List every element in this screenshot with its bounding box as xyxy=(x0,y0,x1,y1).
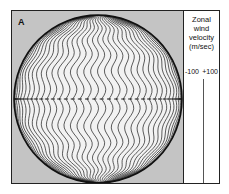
legend-title: Zonal wind velocity (m/sec) xyxy=(184,15,219,51)
legend-panel: Zonal wind velocity (m/sec) -100 +100 xyxy=(184,11,219,183)
legend-title-line: velocity xyxy=(184,33,219,42)
tick-min-label: -100 xyxy=(185,68,199,75)
globe-wind-diagram xyxy=(12,11,183,183)
velocity-profile-line xyxy=(203,79,204,183)
legend-title-line: Zonal xyxy=(184,15,219,24)
legend-title-line: wind xyxy=(184,24,219,33)
panel-label: A xyxy=(18,17,25,27)
globe-panel: A xyxy=(12,11,184,183)
legend-title-line: (m/sec) xyxy=(184,42,219,51)
figure-frame: A Zonal wind velocity (m/sec) -100 +100 xyxy=(11,10,220,184)
tick-max-label: +100 xyxy=(202,68,218,75)
